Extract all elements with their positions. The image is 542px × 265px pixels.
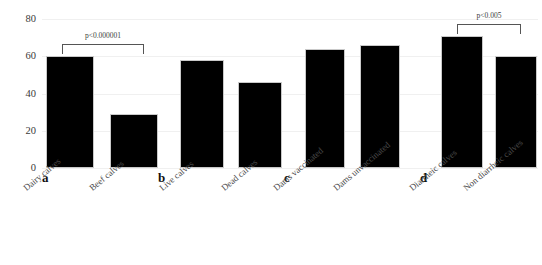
- bar-a-1: [46, 56, 94, 168]
- y-axis: 80 60 40 20 0: [0, 0, 36, 265]
- bar-b-2: [238, 82, 282, 168]
- bar-b-1: [180, 60, 224, 168]
- significance-bracket-a: [62, 44, 144, 54]
- significance-label-a: p<0.000001: [62, 32, 144, 40]
- ytick-label-20: 20: [6, 126, 36, 137]
- ytick-label-40: 40: [6, 89, 36, 100]
- bar-d-1: [441, 36, 483, 168]
- bar-chart-figure: 80 60 40 20 0 p<0.000001 a Dairy calves …: [0, 0, 542, 265]
- significance-label-d: p<0.005: [457, 12, 521, 20]
- ytick-label-80: 80: [6, 14, 36, 25]
- significance-bracket-d: [457, 24, 521, 34]
- ytick-label-0: 0: [6, 163, 36, 174]
- ytick-label-60: 60: [6, 51, 36, 62]
